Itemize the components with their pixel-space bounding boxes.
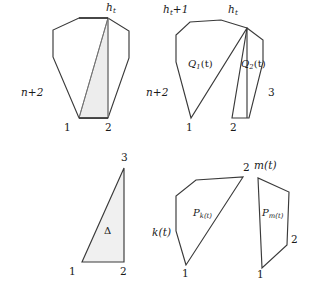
octagon-left-label: n+2: [21, 87, 44, 98]
pk-left-label: k(t): [152, 227, 171, 238]
q1-vertex-1-label: 1: [186, 122, 193, 133]
q1-apex-label: ht+1: [163, 4, 188, 16]
q2-vertex-2-label: 2: [230, 122, 237, 133]
octagon-apex-label: ht: [106, 2, 116, 14]
polygon-pk-outline: [176, 177, 243, 265]
pm-vertex-2-label: 2: [291, 234, 298, 245]
pm-top-label: m(t): [254, 160, 277, 171]
pm-region-label: Pm(t): [262, 208, 283, 220]
q1-region-label: Q1(t): [188, 59, 213, 71]
pk-vertex-1-label: 1: [182, 268, 189, 279]
pk-region-label: Pk(t): [193, 208, 212, 220]
triangle-region-label: Δ: [104, 226, 111, 236]
q1-left-label: n+2: [146, 87, 169, 98]
q2-region-label: Q2(t): [241, 59, 266, 71]
triangle-vertex-1-label: 1: [69, 266, 76, 277]
triangle-vertex-3-label: 3: [121, 152, 128, 163]
q2-apex-label: ht: [228, 4, 238, 16]
panel-triangle: [82, 168, 124, 262]
octagon-vertex-1-label: 1: [64, 122, 71, 133]
panel-pk-pm-polygons: [176, 177, 289, 268]
polygon-pm-outline: [258, 178, 289, 268]
q2-right-label: 3: [268, 87, 275, 98]
panel-octagon: [53, 18, 129, 118]
geometry-figure-canvas: [0, 0, 310, 283]
triangle-outline: [82, 168, 124, 262]
pk-vertex-2-label: 2: [243, 162, 250, 173]
pm-vertex-1-label: 1: [257, 269, 264, 280]
triangle-vertex-2-label: 2: [120, 266, 127, 277]
octagon-vertex-2-label: 2: [105, 122, 112, 133]
